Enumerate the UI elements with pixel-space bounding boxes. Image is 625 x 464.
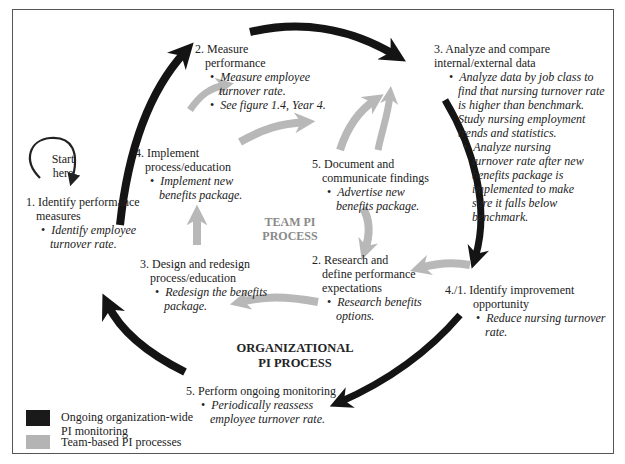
team-step-3: 3. Design and redesign process/education… xyxy=(140,257,280,313)
legend-swatch-black xyxy=(26,410,50,426)
org-step-1: 1. Identify performance measures Identif… xyxy=(26,195,176,251)
legend-item-team: Team-based PI processes xyxy=(61,435,181,449)
legend-item-org: Ongoing organization-wide PI monitoring xyxy=(61,410,193,438)
team-arrow-4-to-5-icon xyxy=(240,122,305,142)
team-step-5: 5. Document and communicate findings Adv… xyxy=(312,157,452,213)
start-here-label: Start here xyxy=(45,152,81,180)
org-arrow-5-to-1-icon xyxy=(108,305,185,372)
team-arrow-upper-right-icon xyxy=(378,95,390,150)
org-step-4: 4./1. Identify improvement opportunity R… xyxy=(445,283,615,339)
team-arrow-5-to-3up-icon xyxy=(340,100,375,150)
team-step-4: 4. Implement process/education Implement… xyxy=(135,146,255,202)
legend-swatch-gray xyxy=(26,435,50,449)
org-step-2: 2. Measure performance Measure employee … xyxy=(195,42,330,112)
team-step-2: 2. Research and define performance expec… xyxy=(312,253,452,323)
org-step-5: 5. Perform ongoing monitoring Periodical… xyxy=(186,384,376,426)
org-step-3: 3. Analyze and compare internal/external… xyxy=(434,42,609,224)
team-pi-process-label: TEAM PI PROCESS xyxy=(240,215,340,243)
team-arrow-5-to-2-icon xyxy=(363,208,369,250)
organizational-pi-process-label: ORGANIZATIONAL PI PROCESS xyxy=(225,341,365,371)
